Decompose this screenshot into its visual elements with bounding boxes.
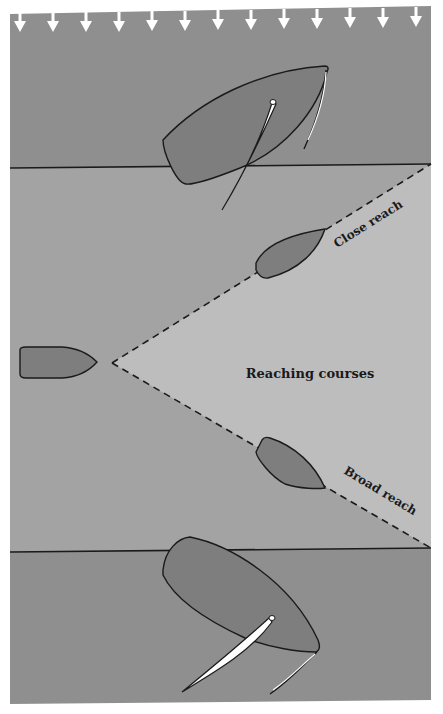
reaching-courses-diagram: Reaching courses Close reach Broad reach [0, 0, 443, 714]
mast [270, 100, 276, 105]
center-label: Reaching courses [246, 366, 375, 381]
mast [269, 616, 275, 621]
